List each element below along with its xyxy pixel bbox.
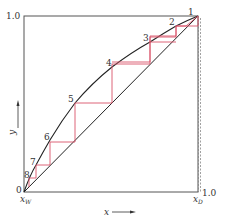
xw-label: xW — [20, 194, 32, 205]
stage-label-2: 2 — [169, 17, 175, 27]
stage-label-7: 7 — [30, 157, 36, 167]
y-axis-label: y — [7, 129, 17, 136]
stage-label-1: 1 — [188, 7, 194, 17]
y-axis-arrow-icon — [17, 100, 20, 106]
stage-label-5: 5 — [68, 94, 74, 104]
mccabe-thiele-diagram: 1 2 3 4 5 6 7 8 1.0 1.0 0 xW xD y x — [0, 0, 225, 219]
stage-label-6: 6 — [44, 132, 50, 142]
stage-label-4: 4 — [106, 58, 112, 68]
stage-label-8: 8 — [24, 170, 30, 180]
x-tick-1: 1.0 — [202, 188, 217, 198]
x-axis-arrow-icon — [130, 211, 136, 214]
x-axis-label: x — [104, 207, 109, 217]
stage-label-3: 3 — [143, 33, 149, 43]
y-tick-1: 1.0 — [6, 11, 21, 21]
